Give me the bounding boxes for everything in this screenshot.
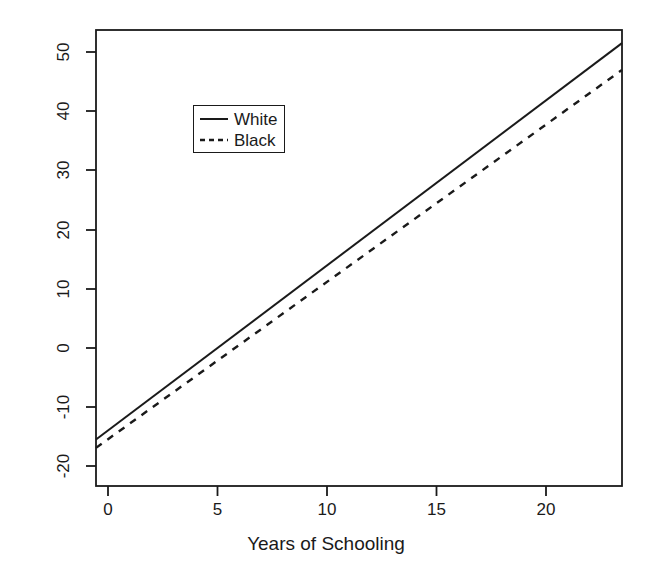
y-axis-ticks bbox=[86, 52, 96, 466]
x-tick-label-2: 10 bbox=[297, 500, 357, 520]
chart-figure: 0 5 10 15 20 50 40 30 20 10 0 -10 -20 Ye… bbox=[0, 0, 652, 577]
x-tick-label-4: 20 bbox=[516, 500, 576, 520]
x-tick-label-3: 15 bbox=[407, 500, 467, 520]
y-tick-label-neg10: -10 bbox=[54, 377, 74, 437]
y-tick-label-30: 30 bbox=[54, 140, 74, 200]
y-tick-label-neg20: -20 bbox=[54, 436, 74, 496]
legend-entry-white: White bbox=[199, 108, 277, 130]
legend-swatch-solid-icon bbox=[199, 112, 229, 126]
legend-label-black: Black bbox=[234, 132, 276, 149]
y-tick-label-10: 10 bbox=[54, 259, 74, 319]
legend: White Black bbox=[193, 105, 285, 153]
x-tick-label-1: 5 bbox=[188, 500, 248, 520]
x-axis-title: Years of Schooling bbox=[0, 533, 652, 555]
legend-entry-black: Black bbox=[199, 129, 276, 151]
x-tick-label-0: 0 bbox=[78, 500, 138, 520]
y-tick-label-40: 40 bbox=[54, 81, 74, 141]
y-tick-label-0: 0 bbox=[54, 318, 74, 378]
series-line-white bbox=[96, 43, 622, 439]
x-axis-ticks bbox=[108, 486, 546, 496]
plot-canvas bbox=[0, 0, 652, 577]
y-tick-label-50: 50 bbox=[54, 22, 74, 82]
legend-swatch-dashed-icon bbox=[199, 133, 229, 147]
y-tick-label-20: 20 bbox=[54, 200, 74, 260]
legend-label-white: White bbox=[234, 111, 277, 128]
series-line-black bbox=[96, 70, 622, 448]
